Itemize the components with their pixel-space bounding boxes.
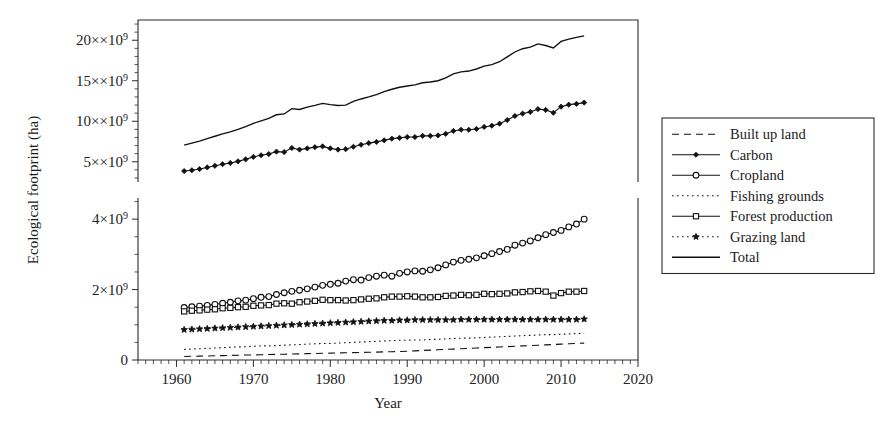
marker-open-square <box>382 295 387 300</box>
upper-y-tick-label: 20××109 <box>76 31 128 48</box>
marker-open-circle <box>450 259 456 265</box>
marker-filled-diamond <box>266 151 271 156</box>
marker-open-square <box>251 303 256 308</box>
marker-open-square <box>558 290 563 295</box>
marker-filled-star <box>358 318 364 324</box>
marker-filled-star <box>458 316 464 322</box>
series-forest-production <box>182 288 587 314</box>
marker-filled-star <box>327 320 333 326</box>
marker-open-square <box>305 299 310 304</box>
marker-open-square <box>351 298 356 303</box>
upper-y-axis: 5××10910××10915××10920××109 <box>76 24 138 178</box>
marker-open-circle <box>512 242 518 248</box>
marker-open-circle <box>320 282 326 288</box>
marker-open-square <box>320 297 325 302</box>
x-tick-label: 1970 <box>238 371 268 387</box>
legend-label: Cropland <box>730 167 785 183</box>
marker-open-square <box>497 291 502 296</box>
marker-open-square <box>182 309 187 314</box>
marker-open-square <box>258 303 263 308</box>
marker-filled-diamond <box>335 147 340 152</box>
marker-open-square <box>443 293 448 298</box>
marker-open-square <box>343 298 348 303</box>
marker-filled-diamond <box>482 124 487 129</box>
marker-filled-star <box>366 318 372 324</box>
marker-filled-star <box>442 316 448 322</box>
marker-filled-diamond <box>382 138 387 143</box>
marker-filled-diamond <box>582 100 587 105</box>
marker-filled-diamond <box>389 136 394 141</box>
marker-filled-star <box>427 316 433 322</box>
marker-open-circle <box>581 216 587 222</box>
marker-open-circle <box>489 251 495 257</box>
marker-open-square <box>451 293 456 298</box>
marker-open-circle <box>312 284 318 290</box>
marker-filled-diamond <box>535 107 540 112</box>
marker-open-circle <box>558 228 564 234</box>
x-tick-label: 2020 <box>623 371 653 387</box>
marker-filled-star <box>304 321 310 327</box>
marker-filled-star <box>289 321 295 327</box>
marker-open-square <box>289 301 294 306</box>
marker-open-circle <box>550 230 556 236</box>
upper-panel-frame <box>138 20 638 182</box>
marker-filled-diamond <box>366 141 371 146</box>
marker-filled-diamond <box>497 121 502 126</box>
marker-open-square <box>235 305 240 310</box>
marker-open-circle <box>243 297 249 303</box>
marker-open-square <box>197 308 202 313</box>
marker-filled-star <box>566 316 572 322</box>
marker-open-square <box>205 307 210 312</box>
marker-open-circle <box>235 298 241 304</box>
marker-open-square <box>551 293 556 298</box>
legend-label: Forest production <box>730 208 833 224</box>
marker-open-circle <box>435 265 441 271</box>
marker-open-square <box>312 298 317 303</box>
marker-open-circle <box>335 280 341 286</box>
lower-y-axis: 02×1094×109 <box>92 202 138 368</box>
marker-filled-diamond <box>443 131 448 136</box>
x-axis: 1960197019801990200020102020Year <box>138 360 653 411</box>
chart-canvas: 5××10910××10915××10920××10902×1094×10919… <box>0 0 889 427</box>
marker-filled-star <box>319 320 325 326</box>
marker-filled-diamond <box>358 142 363 147</box>
marker-open-square <box>228 305 233 310</box>
series-built-up-land <box>184 343 584 356</box>
marker-filled-diamond <box>235 159 240 164</box>
marker-open-square <box>389 294 394 299</box>
marker-filled-star <box>296 321 302 327</box>
marker-open-circle <box>427 267 433 273</box>
marker-filled-star <box>504 316 510 322</box>
marker-open-circle <box>297 287 303 293</box>
marker-open-circle <box>343 278 349 284</box>
marker-filled-star <box>235 324 241 330</box>
marker-filled-star <box>389 317 395 323</box>
marker-open-square <box>405 294 410 299</box>
marker-filled-star <box>273 322 279 328</box>
marker-filled-diamond <box>220 162 225 167</box>
upper-y-tick-label: 15××109 <box>76 72 128 89</box>
marker-filled-star <box>181 326 187 332</box>
marker-open-circle <box>266 294 272 300</box>
marker-filled-star <box>435 316 441 322</box>
marker-filled-star <box>450 316 456 322</box>
y-axis-title: Ecological footprint (ha) <box>25 116 42 264</box>
x-tick-label: 2000 <box>469 371 499 387</box>
marker-open-circle <box>350 277 356 283</box>
marker-open-circle <box>481 253 487 259</box>
marker-open-circle <box>374 273 380 279</box>
marker-filled-star <box>281 322 287 328</box>
marker-filled-star <box>466 316 472 322</box>
marker-filled-diamond <box>428 133 433 138</box>
marker-open-square <box>543 289 548 294</box>
series-carbon <box>182 100 587 174</box>
marker-filled-star <box>196 326 202 332</box>
marker-filled-star <box>473 316 479 322</box>
marker-filled-star <box>219 325 225 331</box>
legend-label: Total <box>730 249 760 265</box>
marker-filled-star <box>535 316 541 322</box>
marker-open-square <box>420 295 425 300</box>
marker-filled-diamond <box>528 109 533 114</box>
marker-open-square <box>489 292 494 297</box>
marker-open-square <box>397 294 402 299</box>
